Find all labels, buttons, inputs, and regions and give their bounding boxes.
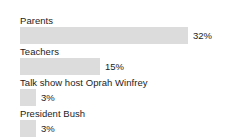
chart-bar-line: 32% [0, 27, 232, 44]
chart-bar-value: 3% [41, 123, 55, 134]
chart-bar [20, 27, 188, 44]
chart-bar-line: 15% [0, 58, 232, 75]
chart-bar-line: 3% [0, 89, 232, 106]
bar-chart: Parents 32% Teachers 15% Talk show host … [0, 0, 232, 137]
chart-row-label: Teachers [20, 46, 59, 57]
chart-bar-line: 3% [0, 120, 232, 137]
chart-bar-value: 15% [105, 61, 124, 72]
chart-row-label: Talk show host Oprah Winfrey [20, 77, 148, 88]
chart-row-label: Parents [20, 15, 53, 26]
chart-bar-value: 32% [193, 30, 212, 41]
chart-bar [20, 120, 36, 137]
chart-row-label: President Bush [20, 108, 85, 119]
chart-bar [20, 89, 36, 106]
chart-bar-value: 3% [41, 92, 55, 103]
chart-bar [20, 58, 100, 75]
